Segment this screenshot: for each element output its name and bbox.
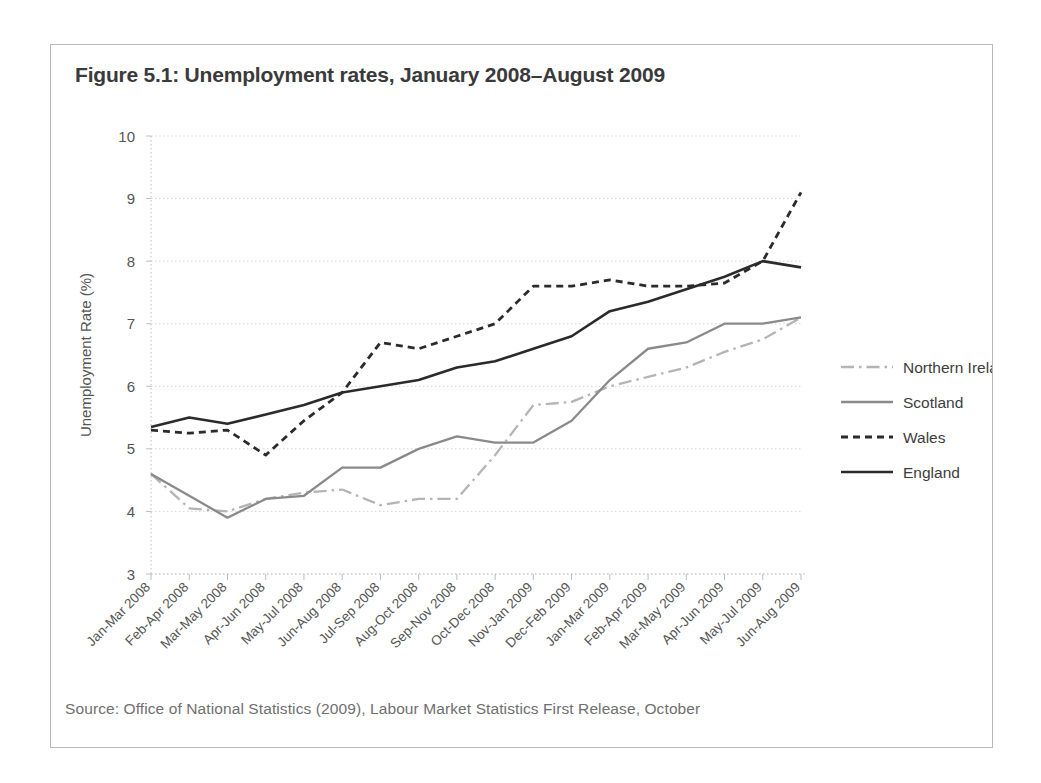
y-tick-label: 6 xyxy=(127,378,135,395)
legend-label-england: England xyxy=(903,464,960,481)
unemployment-line-chart: 109876543 Jan-Mar 2008Feb-Apr 2008Mar-Ma… xyxy=(51,45,992,747)
y-tick-label: 10 xyxy=(118,128,135,145)
y-axis-tick-labels: 109876543 xyxy=(118,128,151,583)
legend-label-northern-ireland: Northern Ireland xyxy=(903,359,992,376)
x-tick-label: Mar-May 2009 xyxy=(616,580,688,652)
y-axis-title: Unemployment Rate (%) xyxy=(77,273,94,437)
figure-container: Figure 5.1: Unemployment rates, January … xyxy=(50,44,993,748)
legend-label-wales: Wales xyxy=(903,429,946,446)
y-tick-label: 4 xyxy=(127,503,135,520)
data-series xyxy=(151,192,801,517)
y-tick-label: 9 xyxy=(127,190,135,207)
x-axis-tick-labels: Jan-Mar 2008Feb-Apr 2008Mar-May 2008Apr-… xyxy=(84,580,804,652)
series-line-northern-ireland xyxy=(151,317,801,511)
y-tick-label: 8 xyxy=(127,253,135,270)
x-axis-ticks xyxy=(151,574,801,580)
source-note: Source: Office of National Statistics (2… xyxy=(65,700,700,718)
legend-label-scotland: Scotland xyxy=(903,394,963,411)
chart-legend: Northern IrelandScotlandWalesEngland xyxy=(841,359,992,481)
x-tick-label: Mar-May 2008 xyxy=(157,580,229,652)
y-tick-label: 5 xyxy=(127,440,135,457)
y-tick-label: 7 xyxy=(127,315,135,332)
y-axis-title-text: Unemployment Rate (%) xyxy=(77,273,94,437)
y-tick-label: 3 xyxy=(127,566,135,583)
axis-lines xyxy=(151,136,807,574)
